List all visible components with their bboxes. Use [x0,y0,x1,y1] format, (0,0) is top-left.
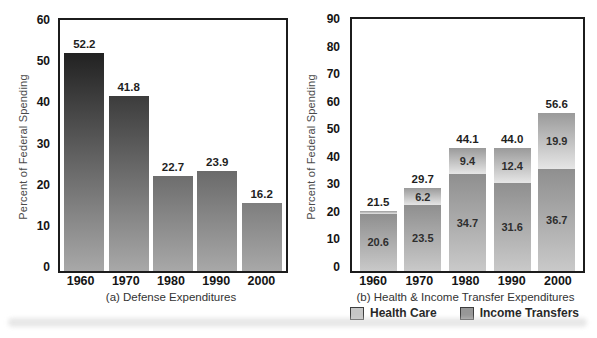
bar-2000: 56.619.936.7 [538,113,575,271]
total-value-1990: 44.0 [482,133,543,145]
bar-2000: 16.2 [242,203,282,271]
segment-income-transfers-1980: 34.7 [449,174,486,271]
bar-1970: 29.76.223.5 [404,188,441,271]
total-value-1970: 29.7 [392,173,453,185]
segment-value-health-care-1970: 6.2 [404,191,441,203]
y-tick-80: 80 [327,40,340,54]
bars-container: 21.50.920.629.76.223.544.19.434.744.012.… [352,19,583,271]
segment-health-care-1980: 9.4 [449,148,486,174]
x-label-2000: 2000 [535,274,581,288]
y-tick-0: 0 [333,260,340,274]
x-axis-labels: 19601970198019902000 [58,274,284,288]
bar-1990: 44.012.431.6 [494,148,531,271]
segment-health-care-1970: 6.2 [404,188,441,205]
x-label-1980: 1980 [148,274,193,288]
figure-federal-spending: Percent of Federal Spending 010203040506… [0,0,597,338]
x-label-1980: 1980 [442,274,488,288]
y-tick-20: 20 [327,205,340,219]
segment-income-transfers-1970: 23.5 [404,205,441,271]
segment-income-transfers-1990: 31.6 [494,183,531,271]
segment-health-care-1990: 12.4 [494,148,531,183]
y-tick-50: 50 [37,54,50,68]
y-axis-ticks: 0102030405060708090 [306,19,344,267]
chart-caption: (a) Defense Expenditures [58,291,284,303]
x-label-1990: 1990 [489,274,535,288]
y-tick-40: 40 [37,95,50,109]
y-axis-ticks: 0102030405060 [16,20,54,267]
segment-value-income-transfers-1990: 31.6 [494,221,531,233]
plot-area: 21.50.920.629.76.223.544.19.434.744.012.… [350,17,585,273]
y-tick-50: 50 [327,122,340,136]
segment-value-income-transfers-1980: 34.7 [449,217,486,229]
bar-1970: 41.8 [109,96,149,271]
bar-value-1960: 52.2 [52,38,116,50]
total-value-2000: 56.6 [526,98,587,110]
bars-container: 52.241.822.723.916.2 [60,20,286,271]
scan-artifact-band [8,318,587,327]
y-tick-60: 60 [37,13,50,27]
bar-value-1970: 41.8 [97,81,161,93]
chart-caption: (b) Health & Income Transfer Expenditure… [350,291,581,303]
bar-1960: 21.50.920.6 [360,211,397,271]
y-tick-90: 90 [327,12,340,26]
segment-income-transfers-1960: 20.6 [360,214,397,271]
bar-value-2000: 16.2 [230,188,294,200]
y-tick-30: 30 [327,177,340,191]
x-label-1960: 1960 [58,274,103,288]
y-tick-10: 10 [327,232,340,246]
x-label-1970: 1970 [396,274,442,288]
segment-value-health-care-1990: 12.4 [494,160,531,172]
plot-area: 52.241.822.723.916.2 [58,18,288,273]
x-label-1970: 1970 [103,274,148,288]
segment-value-income-transfers-1960: 20.6 [360,236,397,248]
total-value-1960: 21.5 [348,196,409,208]
bar-1980: 22.7 [153,176,193,271]
segment-value-income-transfers-1970: 23.5 [404,232,441,244]
y-tick-20: 20 [37,178,50,192]
segment-value-income-transfers-2000: 36.7 [538,214,575,226]
y-tick-0: 0 [43,260,50,274]
y-tick-40: 40 [327,150,340,164]
segment-value-health-care-1980: 9.4 [449,155,486,167]
segment-value-health-care-2000: 19.9 [538,135,575,147]
x-label-1960: 1960 [350,274,396,288]
segment-income-transfers-2000: 36.7 [538,169,575,271]
y-tick-10: 10 [37,219,50,233]
x-axis-labels: 19601970198019902000 [350,274,581,288]
y-tick-30: 30 [37,137,50,151]
segment-health-care-2000: 19.9 [538,113,575,169]
bar-1980: 44.19.434.7 [449,148,486,271]
bar-value-1990: 23.9 [185,156,249,168]
y-tick-60: 60 [327,95,340,109]
x-label-1990: 1990 [194,274,239,288]
y-tick-70: 70 [327,67,340,81]
x-label-2000: 2000 [239,274,284,288]
bar-1990: 23.9 [197,171,237,271]
